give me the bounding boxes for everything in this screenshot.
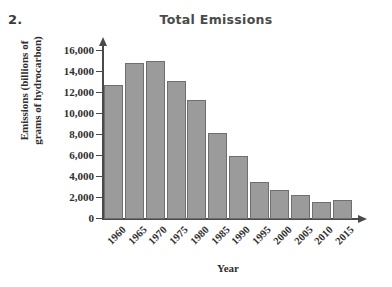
y-tick-12000 [96,92,102,93]
bar-slot-2005 [290,40,311,218]
bar-slot-1960 [104,40,125,218]
bar-series [104,40,353,219]
bar-slot-1995 [249,40,270,218]
y-tick-label-10000: 10,000 [64,107,94,119]
y-tick-label-14000: 14,000 [64,65,94,77]
y-tick-label-16000: 16,000 [64,44,94,56]
bar-1985 [208,133,227,219]
bar-1995 [250,182,269,218]
y-tick-14000 [96,71,102,72]
bar-2015 [333,200,352,218]
bar-2000 [270,190,289,218]
bar-1980 [187,100,206,219]
bar-1975 [167,81,186,219]
bar-1970 [146,61,165,218]
bar-slot-2015 [332,40,353,218]
y-tick-label-6000: 6,000 [69,149,94,161]
y-tick-8000 [96,134,102,135]
x-axis-arrow-icon [358,215,367,223]
bar-slot-1970 [145,40,166,218]
y-tick-10000 [96,113,102,114]
y-tick-label-8000: 8,000 [69,128,94,140]
bar-2005 [291,195,310,218]
bar-slot-1965 [124,40,145,218]
y-tick-label-4000: 4,000 [69,170,94,182]
y-tick-0 [96,218,102,219]
bar-1960 [104,85,123,219]
bar-1965 [125,63,144,218]
x-axis-line [102,218,360,220]
bar-2010 [312,202,331,219]
x-axis-title: Year [103,262,353,274]
chart-title: Total Emissions [0,12,392,27]
y-axis-title: Emissions (billions of grams of hydrocar… [18,11,43,171]
y-tick-label-12000: 12,000 [64,86,94,98]
y-tick-4000 [96,176,102,177]
bar-slot-2000 [270,40,291,218]
y-axis-title-line1: Emissions (billions of [18,41,30,141]
y-tick-label-0: 0 [89,212,95,224]
y-tick-16000 [96,50,102,51]
bar-slot-1985 [207,40,228,218]
y-tick-2000 [96,197,102,198]
y-tick-label-2000: 2,000 [69,191,94,203]
bar-slot-2010 [311,40,332,218]
bar-1990 [229,156,248,218]
bar-slot-1975 [166,40,187,218]
chart-figure: 2. Total Emissions Emissions (billions o… [0,0,392,287]
y-tick-6000 [96,155,102,156]
bar-slot-1990 [228,40,249,218]
bar-slot-1980 [187,40,208,218]
y-axis-title-line2: grams of hydrocarbon) [30,36,42,145]
